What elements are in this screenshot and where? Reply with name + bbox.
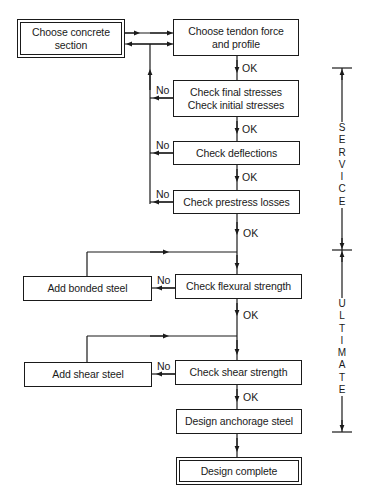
phase-letter: E [336,384,348,396]
box-label: Check prestress losses [183,196,289,209]
ok-label: OK [242,171,257,183]
box-label: Choose concrete section [32,26,110,51]
box-label: Design complete [201,465,278,478]
box-label: Design anchorage steel [185,415,293,428]
phase-letter: E [336,134,348,146]
box-label: Check deflections [196,147,277,160]
phase-letter: M [336,347,348,359]
check-deflections-box: Check deflections [173,141,300,165]
ultimate-phase-label: ULTIMATE [336,298,348,396]
phase-letter: I [336,335,348,347]
flowchart: Choose concrete section Choose tendon fo… [0,0,369,499]
box-label: Check flexural strength [186,280,291,293]
box-label: Choose tendon force and profile [188,25,284,50]
box-label: Check final stresses Check initial stres… [188,86,284,111]
phase-letter: U [336,298,348,310]
no-label: No [156,139,169,151]
phase-letter: T [336,372,348,384]
choose-tendon-box: Choose tendon force and profile [173,19,299,56]
phase-letter: A [336,359,348,371]
ok-label: OK [243,391,258,403]
phase-letter: C [336,183,348,195]
phase-letter: L [336,310,348,322]
no-label: No [157,360,170,372]
design-complete-box: Design complete [176,457,302,485]
phase-letter: E [336,196,348,208]
service-phase-label: SERVICE [336,122,348,208]
add-shear-steel-box: Add shear steel [24,362,152,387]
ok-label: OK [243,227,258,239]
ok-label: OK [243,309,258,321]
choose-concrete-section-box: Choose concrete section [17,19,125,58]
phase-letter: V [336,159,348,171]
design-anchorage-steel-box: Design anchorage steel [176,409,302,434]
ok-label: OK [242,62,257,74]
box-label: Add shear steel [52,368,123,381]
box-label: Add bonded steel [47,282,127,295]
box-label: Check shear strength [190,366,288,379]
check-flexural-strength-box: Check flexural strength [175,274,302,299]
no-label: No [156,188,169,200]
check-stresses-box: Check final stresses Check initial stres… [173,80,299,117]
phase-letter: T [336,323,348,335]
check-shear-strength-box: Check shear strength [175,360,302,385]
no-label: No [156,84,169,96]
ok-label: OK [242,123,257,135]
phase-letter: I [336,171,348,183]
no-label: No [157,274,170,286]
phase-letter: R [336,147,348,159]
phase-letter: S [336,122,348,134]
check-prestress-losses-box: Check prestress losses [173,190,300,214]
add-bonded-steel-box: Add bonded steel [23,276,152,301]
